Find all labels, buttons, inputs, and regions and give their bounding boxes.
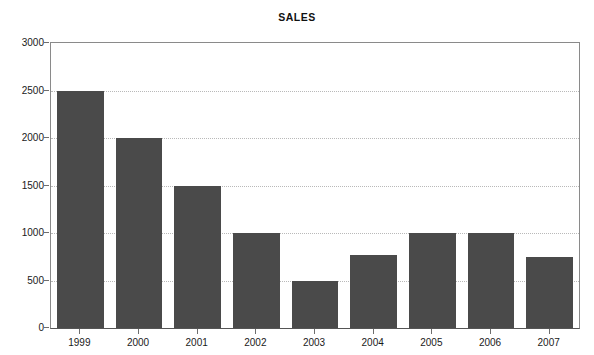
- bar-2006: [468, 233, 515, 328]
- x-axis-tick-mark: [490, 329, 491, 334]
- x-axis-tick-mark: [138, 329, 139, 334]
- bar-2001: [174, 186, 221, 329]
- bar-1999: [57, 91, 104, 329]
- x-axis-tick-label: 1999: [68, 337, 90, 349]
- y-axis-tick-label: 500: [4, 274, 44, 285]
- x-axis-tick-label: 2001: [186, 337, 208, 349]
- x-axis-tick-mark: [431, 329, 432, 334]
- y-axis-tick-label: 3000: [4, 37, 44, 48]
- x-axis-tick-label: 2005: [420, 337, 442, 349]
- bar-2000: [116, 138, 163, 328]
- y-axis-tick-mark: [44, 232, 49, 233]
- y-axis-tick-mark: [44, 42, 49, 43]
- bar-2002: [233, 233, 280, 328]
- x-axis-tick-mark: [197, 329, 198, 334]
- sales-bar-chart: SALES 050010001500200025003000 199920002…: [0, 0, 594, 355]
- plot-area: [50, 42, 580, 329]
- y-axis-tick-mark: [44, 280, 49, 281]
- x-axis-tick-label: 2004: [362, 337, 384, 349]
- bars-group: [51, 43, 579, 328]
- bar-2007: [526, 257, 573, 328]
- y-axis-tick-label: 1000: [4, 227, 44, 238]
- y-axis-tick-mark: [44, 90, 49, 91]
- x-axis-tick-mark: [549, 329, 550, 334]
- y-axis-tick-label: 0: [4, 322, 44, 333]
- x-axis: 199920002001200220032004200520062007: [50, 329, 580, 351]
- bar-2005: [409, 233, 456, 328]
- bar-2004: [350, 255, 397, 328]
- y-axis: 050010001500200025003000: [0, 42, 44, 327]
- x-axis-tick-label: 2000: [127, 337, 149, 349]
- y-axis-tick-mark: [44, 185, 49, 186]
- x-axis-tick-mark: [314, 329, 315, 334]
- x-axis-tick-mark: [373, 329, 374, 334]
- x-axis-tick-label: 2006: [479, 337, 501, 349]
- x-axis-tick-label: 2003: [303, 337, 325, 349]
- x-axis-tick-label: 2007: [538, 337, 560, 349]
- bar-2003: [292, 281, 339, 329]
- y-axis-tick-label: 1500: [4, 179, 44, 190]
- y-axis-tick-mark: [44, 137, 49, 138]
- y-axis-tick-mark: [44, 327, 49, 328]
- x-axis-tick-mark: [255, 329, 256, 334]
- x-axis-tick-mark: [79, 329, 80, 334]
- y-axis-tick-label: 2000: [4, 132, 44, 143]
- y-axis-tick-label: 2500: [4, 84, 44, 95]
- chart-title: SALES: [0, 11, 594, 24]
- x-axis-tick-label: 2002: [244, 337, 266, 349]
